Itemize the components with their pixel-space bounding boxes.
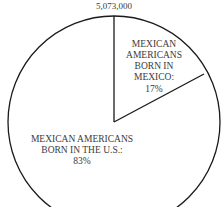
svg-text:MEXICAN AMERICANS: MEXICAN AMERICANS (31, 134, 133, 144)
svg-text:BORN IN: BORN IN (135, 61, 174, 71)
total-label: 5,073,000 (96, 1, 133, 11)
svg-text:MEXICAN: MEXICAN (132, 39, 176, 49)
svg-text:AMERICANS: AMERICANS (126, 50, 182, 60)
pie-chart: 5,073,000 MEXICAN AMERICANS BORN IN MEXI… (0, 0, 223, 207)
svg-text:MEXICO:: MEXICO: (134, 72, 174, 82)
svg-text:83%: 83% (73, 156, 91, 166)
svg-text:BORN IN THE U.S.:: BORN IN THE U.S.: (41, 145, 122, 155)
svg-text:17%: 17% (145, 84, 163, 94)
